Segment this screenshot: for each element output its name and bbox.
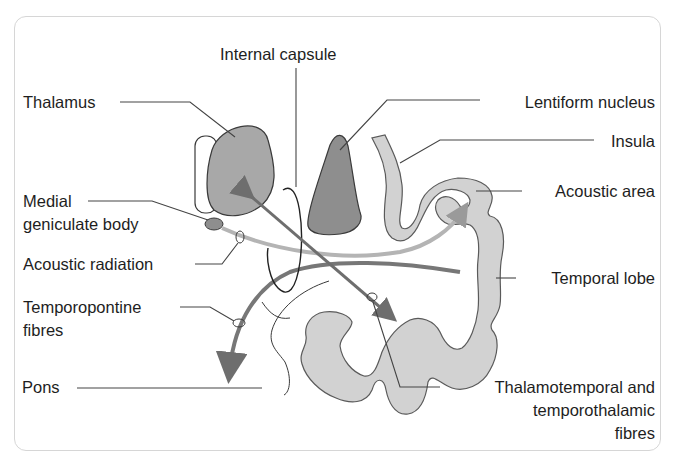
label-thalamotemporal-line2: temporothalamic <box>533 401 655 420</box>
thalamus-shape <box>207 126 274 216</box>
label-lentiform-nucleus: Lentiform nucleus <box>525 93 655 112</box>
label-medial-geniculate-line1: Medial <box>23 192 72 211</box>
label-temporopontine-line2: fibres <box>23 321 63 340</box>
leader-temporopontine <box>180 307 234 321</box>
leader-lentiform <box>340 100 480 150</box>
label-internal-capsule: Internal capsule <box>220 45 337 64</box>
label-thalamotemporal-line3: fibres <box>615 424 655 443</box>
label-thalamotemporal-line1: Thalamotemporal and <box>494 378 655 397</box>
label-pons: Pons <box>22 378 60 397</box>
leader-thalamus <box>120 102 235 137</box>
label-temporopontine-line1: Temporopontine <box>23 298 141 317</box>
label-medial-geniculate-line2: geniculate body <box>23 215 139 234</box>
pons-inner-curve <box>262 302 290 318</box>
label-acoustic-radiation: Acoustic radiation <box>23 255 153 274</box>
lentiform-nucleus-shape <box>308 135 361 234</box>
label-thalamus: Thalamus <box>23 93 95 112</box>
label-temporal-lobe: Temporal lobe <box>551 269 655 288</box>
label-acoustic-area: Acoustic area <box>555 182 655 201</box>
label-insula: Insula <box>611 132 655 151</box>
leader-insula <box>400 140 594 163</box>
leader-acoustic-radiation <box>195 243 238 264</box>
